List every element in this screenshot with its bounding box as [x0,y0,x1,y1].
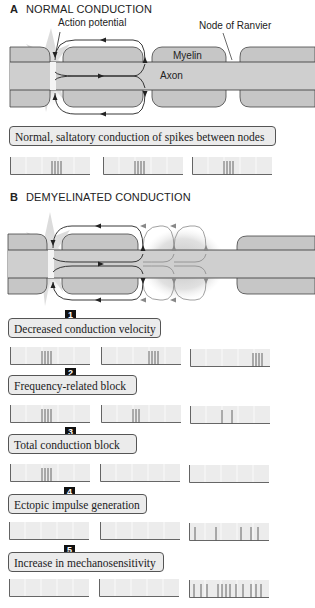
item-3-callout: Total conduction block [8,434,137,454]
normal-conduction-diagram [0,25,315,120]
spike-trace [189,521,269,541]
spike-trace [10,462,90,482]
spike-trace [101,345,181,365]
axon [8,250,315,278]
spike-trace [190,347,270,367]
item-1-callout: Decreased conduction velocity [8,318,161,338]
spike-trace [101,403,181,423]
spike-trace [10,155,90,175]
spike-trace [103,155,183,175]
section-b-letter: B [10,191,18,203]
spike-trace [189,578,269,598]
section-a-title-text: NORMAL CONDUCTION [26,3,152,15]
section-a-letter: A [10,3,18,15]
demyelinated-conduction-diagram [0,210,315,310]
normal-conduction-callout: Normal, saltatory conduction of spikes b… [9,126,276,146]
spike-trace [10,345,90,365]
spike-trace [99,577,179,597]
section-a-title: ANORMAL CONDUCTION [10,3,152,15]
spike-trace [100,520,180,540]
spike-trace [9,577,89,597]
spike-trace [189,463,269,483]
item-2-callout: Frequency-related block [8,375,137,395]
spike-trace [100,462,180,482]
spike-trace [9,520,89,540]
spike-trace [190,404,270,424]
axon-label: Axon [160,70,183,81]
item-4-callout: Ectopic impulse generation [8,494,147,514]
section-b-title: BDEMYELINATED CONDUCTION [10,191,191,203]
item-5-callout: Increase in mechanosensitivity [8,552,164,572]
spike-trace [192,155,272,175]
spike-trace [10,403,90,423]
myelin-label: Myelin [173,50,202,61]
section-b-title-text: DEMYELINATED CONDUCTION [26,191,191,203]
